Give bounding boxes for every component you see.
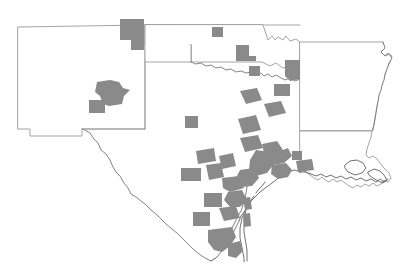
shaded-county [240,135,263,152]
shaded-county [271,163,292,179]
shaded-county [193,212,210,226]
state-outlines-group [18,25,392,262]
shaded-county [296,159,314,172]
shaded-county [285,60,300,81]
shaded-county [212,27,223,37]
shaded-county [89,100,105,113]
shaded-county [243,213,251,227]
state-outline-louisiana [300,131,391,188]
shaded-county [206,163,224,180]
shaded-county [185,116,198,128]
shaded-county [274,84,290,96]
shaded-county [181,168,201,181]
region-map: South Central United States County Distr… [0,0,413,273]
shaded-county [264,101,286,117]
map-container: South Central United States County Distr… [0,0,413,273]
shaded-county [204,193,222,207]
shaded-county [196,148,216,164]
shaded-county [249,66,260,76]
shaded-county [228,241,243,258]
shaded-county [243,197,252,210]
shaded-county [238,115,261,134]
shaded-county [240,88,262,104]
shaded-county [131,40,144,50]
shaded-county [292,151,302,160]
state-outline-new-mexico [18,25,145,136]
shaded-county [120,19,144,40]
